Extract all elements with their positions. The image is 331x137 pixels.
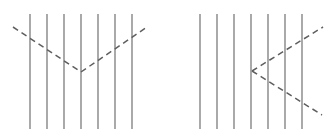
- figure-background: [0, 0, 331, 137]
- illusion-figure-svg: [0, 0, 331, 137]
- illusion-figure-canvas: [0, 0, 331, 137]
